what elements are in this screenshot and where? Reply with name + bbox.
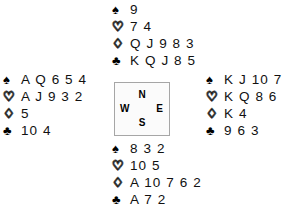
spade-icon: ♠ (3, 71, 16, 88)
hand-east-diamonds-row: ♢ K 4 (206, 105, 282, 122)
diamond-icon: ♢ (112, 35, 125, 52)
hand-west-clubs-cards: 10 4 (16, 122, 52, 139)
diamond-icon: ♢ (3, 105, 16, 122)
hand-north-clubs-cards: K Q J 8 5 (125, 52, 196, 69)
compass-label-north: N (115, 90, 169, 100)
heart-icon: ♡ (206, 88, 219, 105)
hand-north-spades-row: ♠ 9 (112, 1, 196, 18)
club-icon: ♣ (112, 191, 125, 208)
hand-south-clubs-row: ♣ A 7 2 (112, 191, 202, 208)
hand-west-clubs-row: ♣ 10 4 (3, 122, 87, 139)
hand-north-hearts-row: ♡ 7 4 (112, 18, 196, 35)
club-icon: ♣ (112, 52, 125, 69)
hand-north-diamonds-row: ♢ Q J 9 8 3 (112, 35, 196, 52)
compass-label-west: W (120, 104, 129, 114)
hand-south-spades-cards: 8 3 2 (125, 140, 166, 157)
hand-east: ♠ K J 10 7 ♡ K Q 8 6 ♢ K 4 ♣ 9 6 3 (206, 71, 282, 139)
compass-label-south: S (115, 118, 169, 128)
club-icon: ♣ (3, 122, 16, 139)
compass-box: N W E S (114, 82, 170, 136)
hand-east-spades-row: ♠ K J 10 7 (206, 71, 282, 88)
hand-west-hearts-row: ♡ A J 9 3 2 (3, 88, 87, 105)
hand-south-diamonds-cards: A 10 7 6 2 (125, 174, 202, 191)
hand-east-clubs-row: ♣ 9 6 3 (206, 122, 282, 139)
hand-east-spades-cards: K J 10 7 (219, 71, 282, 88)
hand-west: ♠ A Q 6 5 4 ♡ A J 9 3 2 ♢ 5 ♣ 10 4 (3, 71, 87, 139)
hand-west-hearts-cards: A J 9 3 2 (16, 88, 83, 105)
hand-south-diamonds-row: ♢ A 10 7 6 2 (112, 174, 202, 191)
diamond-icon: ♢ (112, 174, 125, 191)
hand-east-clubs-cards: 9 6 3 (219, 122, 260, 139)
hand-east-hearts-row: ♡ K Q 8 6 (206, 88, 282, 105)
hand-north: ♠ 9 ♡ 7 4 ♢ Q J 9 8 3 ♣ K Q J 8 5 (112, 1, 196, 69)
hand-south-hearts-cards: 10 5 (125, 157, 161, 174)
hand-west-spades-row: ♠ A Q 6 5 4 (3, 71, 87, 88)
hand-south: ♠ 8 3 2 ♡ 10 5 ♢ A 10 7 6 2 ♣ A 7 2 (112, 140, 202, 208)
hand-north-spades-cards: 9 (125, 1, 139, 18)
hand-east-diamonds-cards: K 4 (219, 105, 248, 122)
bridge-deal-diagram: ♠ 9 ♡ 7 4 ♢ Q J 9 8 3 ♣ K Q J 8 5 ♠ A Q … (0, 0, 285, 213)
spade-icon: ♠ (112, 140, 125, 157)
hand-north-clubs-row: ♣ K Q J 8 5 (112, 52, 196, 69)
hand-west-diamonds-row: ♢ 5 (3, 105, 87, 122)
hand-north-hearts-cards: 7 4 (125, 18, 152, 35)
club-icon: ♣ (206, 122, 219, 139)
hand-west-spades-cards: A Q 6 5 4 (16, 71, 87, 88)
heart-icon: ♡ (3, 88, 16, 105)
hand-south-hearts-row: ♡ 10 5 (112, 157, 202, 174)
diamond-icon: ♢ (206, 105, 219, 122)
hand-south-spades-row: ♠ 8 3 2 (112, 140, 202, 157)
hand-east-hearts-cards: K Q 8 6 (219, 88, 277, 105)
hand-west-diamonds-cards: 5 (16, 105, 30, 122)
spade-icon: ♠ (206, 71, 219, 88)
heart-icon: ♡ (112, 157, 125, 174)
hand-south-clubs-cards: A 7 2 (125, 191, 166, 208)
compass-label-east: E (156, 104, 163, 114)
spade-icon: ♠ (112, 1, 125, 18)
hand-north-diamonds-cards: Q J 9 8 3 (125, 35, 195, 52)
heart-icon: ♡ (112, 18, 125, 35)
